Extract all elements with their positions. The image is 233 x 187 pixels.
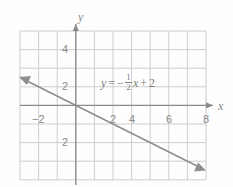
x-tick-label-2: 2 <box>110 113 116 125</box>
equation-constant: 2 <box>149 77 155 89</box>
equation-equals: = <box>108 77 115 89</box>
x-tick-label-8: 8 <box>203 113 209 125</box>
equation-annotation: y = − 1 2 x + 2 <box>101 73 155 92</box>
equation-minus-sign: − <box>117 77 124 89</box>
y-tick-label--2: 2 <box>62 136 68 148</box>
x-tick-label-4: 4 <box>129 113 135 125</box>
fraction-denominator: 2 <box>125 83 132 92</box>
equation-fraction: 1 2 <box>125 73 132 92</box>
line-arrowhead-right <box>194 163 206 172</box>
equation-plus-sign: + <box>140 77 147 89</box>
coordinate-graph-figure: −2 2 4 6 8 4 2 2 y x y = − 1 2 x + 2 <box>0 0 233 187</box>
y-axis-label: y <box>78 10 83 25</box>
y-axis-arrowhead <box>73 24 79 31</box>
line-arrowhead-left <box>19 76 31 85</box>
x-axis-label: x <box>218 99 223 114</box>
x-axis-arrowhead <box>206 102 213 108</box>
equation-variable: x <box>133 77 138 89</box>
x-tick-label--2: −2 <box>32 113 45 125</box>
y-tick-label-2: 2 <box>62 80 68 92</box>
equation-lhs: y <box>101 77 106 89</box>
y-tick-label-4: 4 <box>62 43 68 55</box>
plot-area <box>0 0 233 187</box>
fraction-numerator: 1 <box>125 73 132 82</box>
x-tick-label-6: 6 <box>166 113 172 125</box>
